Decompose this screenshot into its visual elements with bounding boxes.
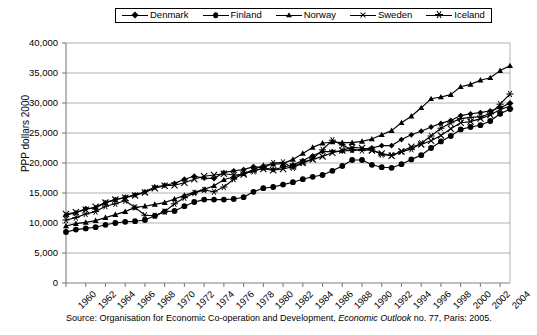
chart-figure: Denmark Finland Norway Sweden Iceland xyxy=(0,0,537,335)
source-suffix: no. 77, Paris: 2005. xyxy=(411,313,492,323)
y-tick-label: 25,000 xyxy=(14,128,58,137)
y-tick-label: 40,000 xyxy=(14,38,58,47)
y-tick-label: 5,000 xyxy=(14,248,58,257)
y-tick-label: 15,000 xyxy=(14,188,58,197)
y-tick-label: 35,000 xyxy=(14,68,58,77)
y-tick-label: 30,000 xyxy=(14,98,58,107)
chart-canvas xyxy=(0,0,537,335)
source-italic: Economic Outlook xyxy=(338,313,411,323)
y-tick-label: 10,000 xyxy=(14,218,58,227)
plot-area: PPP dollars 2000 40,00035,00030,00025,00… xyxy=(0,0,537,335)
y-tick-label: 20,000 xyxy=(14,158,58,167)
source-prefix: Source: Organisation for Economic Co-ope… xyxy=(66,313,338,323)
y-tick-label: 0 xyxy=(14,278,58,287)
source-caption: Source: Organisation for Economic Co-ope… xyxy=(66,313,492,323)
